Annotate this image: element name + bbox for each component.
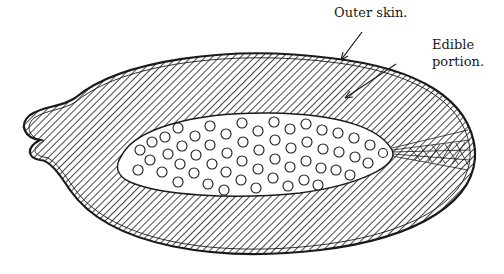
papaya-drawing xyxy=(0,0,504,274)
edible-portion-label-line2: portion. xyxy=(432,53,484,70)
outer-skin-pointer xyxy=(341,32,362,60)
outer-skin-label: Outer skin. xyxy=(334,4,408,21)
papaya-section-figure: Outer skin. Edible portion. xyxy=(0,0,504,274)
edible-portion-label: Edible portion. xyxy=(432,36,484,70)
edible-portion-label-line1: Edible xyxy=(432,36,484,53)
